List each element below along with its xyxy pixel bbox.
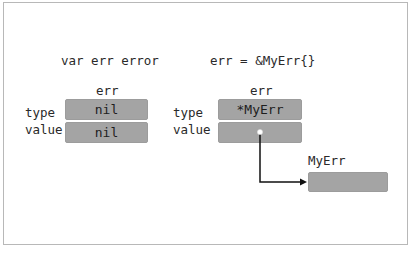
pointer-arrow — [0, 0, 414, 254]
arrowhead-icon — [300, 179, 307, 186]
pointer-line — [260, 132, 301, 182]
pointer-dot — [257, 129, 262, 134]
